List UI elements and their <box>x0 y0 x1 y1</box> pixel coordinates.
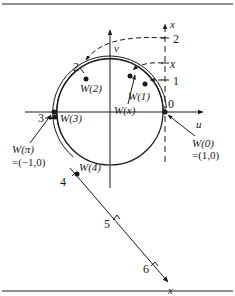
tangent-x-number-line <box>70 168 168 282</box>
tick-5 <box>113 215 120 220</box>
tick-label-2: 2 <box>173 32 179 46</box>
point-w1 <box>143 82 148 87</box>
wrapping-function-diagram: u v x x 0 1 x 2 2 3 4 5 6 W(0) =(1,0) W(… <box>0 0 235 296</box>
label-w4: W(4) <box>79 161 101 174</box>
label-wpi-coords: =(−1,0) <box>12 156 46 169</box>
label-wx: W(x) <box>114 104 136 117</box>
label-wpi: W(π) <box>12 143 34 156</box>
v-axis-label: v <box>114 42 119 54</box>
label-w0-coords: =(1,0) <box>192 149 220 162</box>
circle-label-3: 3 <box>38 111 44 125</box>
point-w2 <box>84 77 89 82</box>
leader-2 <box>80 68 84 73</box>
vertical-x-label: x <box>169 18 175 30</box>
tangent-label-6: 6 <box>143 262 149 276</box>
tick-label-x: x <box>169 57 176 71</box>
tick-label-1: 1 <box>173 74 179 88</box>
circle-label-2: 2 <box>73 60 79 74</box>
leader-w0 <box>168 115 195 136</box>
point-w0 <box>163 110 168 115</box>
point-w3 <box>53 115 58 120</box>
label-w3: W(3) <box>60 112 82 125</box>
point-wx <box>128 74 133 79</box>
tick-label-0: 0 <box>168 97 174 111</box>
label-w2: W(2) <box>80 82 102 95</box>
tangent-x-label: x <box>167 284 173 296</box>
wrap-arrow-2 <box>86 38 165 60</box>
circle-label-4: 4 <box>60 175 66 189</box>
u-axis-label: u <box>196 118 202 130</box>
point-wpi <box>52 110 57 115</box>
wrap-arrow-x <box>133 63 163 70</box>
tangent-label-5: 5 <box>104 217 110 231</box>
label-w1: W(1) <box>128 90 150 103</box>
